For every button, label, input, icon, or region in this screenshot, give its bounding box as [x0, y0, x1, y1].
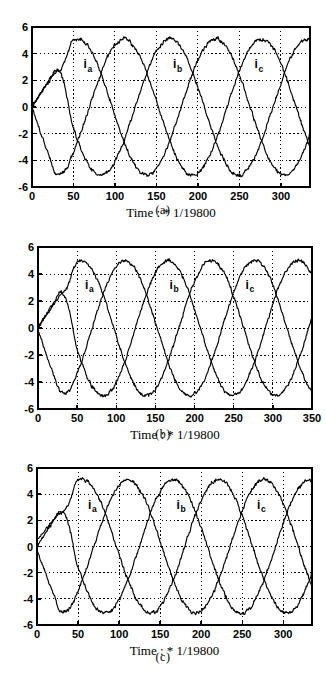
y-axis-tick-label: 4: [28, 268, 35, 280]
x-axis-tick-label: 100: [106, 190, 124, 202]
x-axis-tick-label: 250: [233, 628, 251, 640]
x-axis-tick-label: 50: [67, 190, 79, 202]
x-axis-tick-label: 350: [303, 412, 321, 424]
panel-caption-a: (a): [0, 203, 326, 218]
y-axis-tick-label: 0: [28, 322, 34, 334]
annotation-subscript: b: [181, 504, 186, 514]
series-annotation-ia: ia: [88, 498, 97, 515]
series-annotation-ic: ic: [257, 498, 266, 515]
y-axis-tick-label: 2: [27, 514, 33, 526]
y-axis-tick-label: 6: [22, 21, 28, 33]
plot-a-canvas: 6420-2-4-6050100150200250300iaibicTime :…: [0, 8, 326, 226]
annotation-symbol: i: [173, 57, 176, 71]
annotation-subscript: b: [177, 64, 182, 74]
x-axis-tick-label: 0: [34, 628, 40, 640]
y-axis-tick-label: 0: [27, 541, 33, 553]
series-annotation-ib: ib: [170, 278, 179, 295]
y-axis-tick-label: 4: [27, 488, 34, 500]
y-axis-tick-label: 0: [22, 101, 28, 113]
y-axis-tick-label: -4: [18, 154, 29, 166]
series-annotation-ia: ia: [85, 278, 94, 295]
y-axis-tick-label: 2: [22, 74, 28, 86]
x-axis-tick-label: 0: [29, 190, 35, 202]
plot-panel-c: 6420-2-4-6050100150200250300iaibicTime :…: [0, 452, 326, 670]
panel-caption-b: (b): [0, 427, 326, 442]
annotation-symbol: i: [83, 57, 86, 71]
x-axis-tick-label: 50: [72, 628, 84, 640]
y-axis-tick-label: -6: [24, 403, 34, 415]
x-axis-tick-label: 300: [264, 412, 282, 424]
y-axis-tick-label: -6: [23, 619, 33, 631]
annotation-subscript: c: [258, 64, 263, 74]
x-axis-tick-label: 250: [230, 190, 248, 202]
y-axis-tick-label: -4: [24, 376, 35, 388]
annotation-symbol: i: [170, 278, 173, 292]
annotation-symbol: i: [88, 498, 91, 512]
x-axis-tick-label: 200: [185, 412, 203, 424]
annotation-subscript: a: [87, 64, 92, 74]
x-axis-tick-label: 150: [151, 628, 169, 640]
x-axis-tick-label: 100: [110, 628, 128, 640]
x-axis-tick-label: 100: [107, 412, 125, 424]
x-axis-tick-label: 150: [147, 190, 165, 202]
plot-panel-a: 6420-2-4-6050100150200250300iaibicTime :…: [0, 8, 326, 226]
plot-panel-b: 6420-2-4-6050100150200250300350iaibicTim…: [0, 228, 326, 450]
series-annotation-ib: ib: [177, 498, 186, 515]
series-annotation-ib: ib: [173, 57, 182, 73]
plot-b-canvas: 6420-2-4-6050100150200250300350iaibicTim…: [0, 228, 326, 450]
plot-c-canvas: 6420-2-4-6050100150200250300iaibicTime :…: [0, 452, 326, 670]
y-axis-tick-label: -2: [23, 567, 33, 579]
y-axis-tick-label: 6: [28, 241, 34, 253]
y-axis-tick-label: 4: [22, 48, 29, 60]
x-axis-tick-label: 50: [71, 412, 83, 424]
waveform-ic: [32, 37, 310, 176]
annotation-subscript: b: [174, 284, 179, 294]
panel-caption-c: (c): [0, 650, 326, 665]
x-axis-tick-label: 300: [272, 190, 290, 202]
series-annotation-ia: ia: [83, 57, 92, 73]
annotation-symbol: i: [254, 57, 257, 71]
x-axis-tick-label: 200: [189, 190, 207, 202]
annotation-subscript: a: [89, 284, 94, 294]
y-axis-tick-label: -2: [18, 128, 28, 140]
x-axis-tick-label: 150: [146, 412, 164, 424]
y-axis-tick-label: 2: [28, 295, 34, 307]
figure-page: 6420-2-4-6050100150200250300iaibicTime :…: [0, 0, 326, 674]
annotation-symbol: i: [257, 498, 260, 512]
annotation-symbol: i: [245, 278, 248, 292]
annotation-subscript: a: [92, 504, 97, 514]
series-annotation-ic: ic: [245, 278, 254, 295]
x-axis-tick-label: 250: [225, 412, 243, 424]
x-axis-tick-label: 200: [192, 628, 210, 640]
annotation-subscript: c: [261, 504, 266, 514]
y-axis-tick-label: -6: [18, 181, 28, 193]
waveform-ib: [32, 37, 310, 177]
annotation-symbol: i: [85, 278, 88, 292]
series-annotation-ic: ic: [254, 57, 263, 73]
y-axis-tick-label: -2: [24, 349, 34, 361]
annotation-subscript: c: [249, 284, 254, 294]
y-axis-tick-label: -4: [23, 593, 34, 605]
x-axis-tick-label: 300: [274, 628, 292, 640]
annotation-symbol: i: [177, 498, 180, 512]
x-axis-tick-label: 0: [35, 412, 41, 424]
y-axis-tick-label: 6: [27, 462, 33, 474]
